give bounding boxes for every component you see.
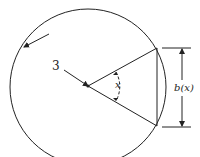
triangle-side-upper xyxy=(88,48,157,86)
radius-label: 3 xyxy=(52,59,60,73)
diagram-canvas: 3 x b(x) xyxy=(0,0,200,157)
circle-diagram xyxy=(0,0,200,157)
angle-label: x xyxy=(115,79,121,90)
radius-line xyxy=(24,34,49,47)
triangle-side-lower xyxy=(88,86,157,126)
radius-line-segment xyxy=(64,70,88,86)
circle xyxy=(10,9,166,157)
chord-label: b(x) xyxy=(174,82,194,93)
